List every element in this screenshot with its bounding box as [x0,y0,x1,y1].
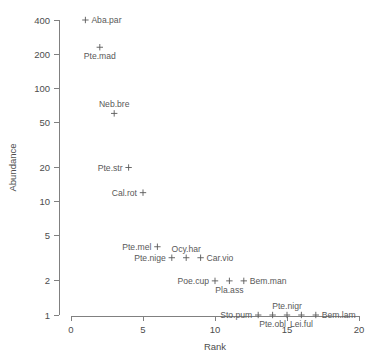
y-axis-tick-label: 20 [39,162,50,173]
y-axis-tick-label: 2 [45,275,50,286]
data-point-label: Ocy.har [171,244,201,254]
rank-abundance-plot: 125102050100200400Abundance05101520RankA… [0,0,389,363]
data-point-label: Bem.man [250,276,287,286]
x-axis-tick-label: 0 [68,324,73,335]
data-point-label: Car.vio [207,253,234,263]
data-point-label: Pte.obl [259,319,286,329]
plot-canvas: 125102050100200400Abundance05101520RankA… [0,0,389,363]
x-axis-title: Rank [204,341,226,352]
data-point-label: Neb.bre [99,99,130,109]
data-point-label: Pla.ass [215,285,243,295]
y-axis-title: Abundance [7,143,18,191]
y-axis-tick-label: 50 [39,117,50,128]
data-point-label: Sto.pum [220,310,252,320]
y-axis-tick-label: 1 [45,310,50,321]
x-axis-tick-label: 10 [210,324,221,335]
y-axis-tick-label: 400 [34,15,50,26]
x-axis-tick-label: 5 [140,324,145,335]
y-axis-tick-label: 200 [34,49,50,60]
data-point-label: Cal.rot [112,188,138,198]
data-point-label: Pte.nigr [272,301,302,311]
data-point-label: Pte.nige [134,253,166,263]
data-point-label: Lei.ful [290,319,313,329]
data-point-label: Pte.mad [84,51,116,61]
data-point-label: Pte.str [98,163,123,173]
x-axis-tick-label: 20 [354,324,365,335]
y-axis-tick-label: 100 [34,83,50,94]
data-point-label: Aba.par [91,15,121,25]
y-axis-tick-label: 10 [39,196,50,207]
y-axis-tick-label: 5 [45,230,50,241]
data-point-label: Poe.cup [177,276,209,286]
data-point-label: Bem.lam [322,310,356,320]
data-point-label: Pte.mel [122,242,151,252]
